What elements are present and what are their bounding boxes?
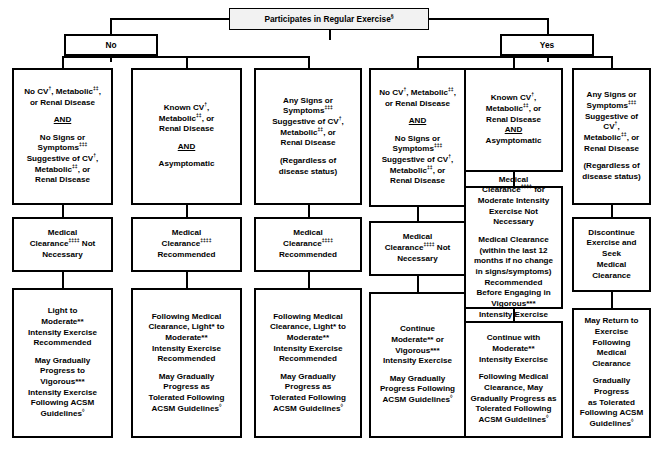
- connector-col4-r1-r2: [417, 207, 419, 221]
- clearance-box-col1: MedicalClearance‡‡‡‡ NotNecessary: [12, 217, 113, 272]
- connector-col1-r1-r2: [62, 203, 64, 217]
- c3-l5: Renal Disease: [281, 138, 336, 147]
- c3-cl2s: ‡‡‡‡: [322, 237, 333, 243]
- c1-cl2b: Not: [80, 239, 96, 248]
- c2-r6: May Gradually: [159, 372, 214, 381]
- c1-l4a: Symptoms: [38, 143, 79, 152]
- c3-l2a: Symptoms: [283, 106, 324, 115]
- c4-cl1: Medical: [403, 232, 433, 241]
- c1-l4s: ‡‡‡: [79, 142, 87, 148]
- c1-r5: May Gradually: [35, 356, 90, 365]
- criteria-box-col1: No CV†, Metabolic‡‡,or Renal Disease AND…: [12, 68, 113, 205]
- c1-r8: Intensity Exercise: [28, 388, 97, 397]
- c5-r2: Moderate**: [492, 344, 534, 353]
- c5-cl2a: Clearance: [482, 185, 521, 194]
- c5-cl3: Moderate Intensity: [478, 196, 550, 205]
- c1-cl2s: ‡‡‡‡: [68, 237, 79, 243]
- connector-yes-col4: [417, 56, 419, 68]
- c5-cl1: Medical: [499, 175, 529, 184]
- c3-r2: Clearance, Light* to: [270, 322, 346, 331]
- c5-cl10: Recommended: [484, 278, 542, 287]
- c5-r3: Intensity Exercise: [479, 355, 548, 364]
- c5-l3: Renal Disease: [486, 115, 541, 124]
- c1-cl2a: Clearance: [30, 239, 69, 248]
- c5-l1a: Known CV: [491, 93, 531, 102]
- c2-l2a: Metabolic: [159, 114, 196, 123]
- c4-r2: Moderate** or: [391, 335, 444, 344]
- c6-cl1: Discontinue: [588, 228, 634, 237]
- c1-and: AND: [54, 115, 72, 124]
- recommendation-box-col5: Continue withModerate**Intensity Exercis…: [464, 321, 563, 438]
- c5-cl8: months if no change: [474, 256, 553, 265]
- c1-l7: Renal Disease: [35, 175, 90, 184]
- c5-r7: Tolerated Following: [476, 404, 552, 413]
- c2-l1b: ,: [207, 103, 209, 112]
- c1-r3: Intensity Exercise: [28, 328, 97, 337]
- c5-cl2s: ‡‡‡‡: [521, 184, 532, 190]
- connector-no-col1: [62, 56, 64, 68]
- c5-r8a: ACSM Guidelines: [479, 415, 546, 424]
- c4-cl2b: Not: [435, 243, 451, 252]
- connector-yes-bus: [417, 56, 613, 58]
- c1-l2: or Renal Disease: [30, 98, 95, 107]
- c4-l1a: No CV: [379, 88, 403, 97]
- c5-r1: Continue with: [487, 333, 541, 342]
- c1-cl3: Necessary: [42, 250, 83, 259]
- branch-label-yes: Yes: [505, 40, 589, 51]
- c3-l3b: ,: [342, 117, 344, 126]
- c2-cl2a: Clearance: [162, 239, 201, 248]
- c3-r4: Intensity Exercise: [274, 344, 343, 353]
- c1-l6b: , or: [78, 165, 91, 174]
- connector-col2-r1-r2: [186, 203, 188, 217]
- c2-r8: Tolerated Following: [149, 393, 225, 402]
- c6-l2s: ‡‡‡: [628, 99, 636, 105]
- c2-r9a: ACSM Guidelines: [152, 404, 219, 413]
- c5-cl9: in signs/symptoms): [475, 267, 551, 276]
- c1-l1b: , Metabolic: [51, 87, 93, 96]
- c3-r8: Tolerated Following: [270, 393, 346, 402]
- c6-l2a: Symptoms: [587, 101, 628, 110]
- c5-cl13: Intensity Exercise: [479, 310, 548, 319]
- clearance-box-col4: MedicalClearance‡‡‡‡ NotNecessary: [369, 221, 466, 276]
- c3-l4b: , or: [323, 128, 336, 137]
- c3-r9a: ACSM Guidelines: [273, 404, 340, 413]
- c6-r2: Exercise Following: [593, 327, 631, 347]
- title-box: Participates in Regular Exercise§: [229, 8, 429, 30]
- connector-no-col2: [186, 56, 188, 68]
- c1-l6a: Metabolic: [35, 165, 72, 174]
- c5-cl4: Exercise Not: [489, 207, 538, 216]
- c1-r9: Following ACSM: [31, 398, 95, 407]
- connector-yes-col6: [611, 56, 613, 68]
- c1-l1a: No CV: [24, 87, 48, 96]
- clearance-box-col2: MedicalClearance‡‡‡‡Recommended: [131, 217, 242, 272]
- c3-cl1: Medical: [293, 228, 323, 237]
- c3-cl2a: Clearance: [283, 239, 322, 248]
- c6-cl3: Medical Clearance: [592, 260, 631, 280]
- criteria-box-col4: No CV†, Metabolic‡‡,or Renal Disease AND…: [369, 68, 466, 207]
- connector-col4-r2-r3: [417, 276, 419, 292]
- c3-r3: Moderate**: [287, 333, 329, 342]
- c1-r6: Progress to: [40, 366, 85, 375]
- c1-cl1: Medical: [48, 228, 78, 237]
- c5-cl12: Vigorous***: [491, 299, 535, 308]
- connector-yes-drop: [547, 18, 549, 34]
- c4-l4a: Symptoms: [393, 144, 434, 153]
- c4-cl2a: Clearance: [385, 243, 424, 252]
- exercise-preparticipation-flowchart: Participates in Regular Exercise§ No Yes…: [0, 0, 659, 449]
- recommendation-box-col1: Light toModerate**Intensity ExerciseReco…: [12, 288, 113, 438]
- title-label: Participates in Regular Exercise: [264, 14, 390, 24]
- c6-n1: (Regardless of: [583, 161, 639, 170]
- c1-r7: Vigorous***: [40, 377, 84, 386]
- c5-r6: Gradually Progress as: [471, 394, 557, 403]
- c4-l7: Renal Disease: [390, 176, 445, 185]
- c2-r2: Clearance, Light* to: [148, 322, 224, 331]
- c5-and: AND: [505, 125, 523, 134]
- c3-l2s: ‡‡‡: [325, 105, 333, 111]
- clearance-box-col3: MedicalClearance‡‡‡‡Recommended: [254, 217, 362, 272]
- c1-r1: Light to: [48, 306, 78, 315]
- recommendation-box-col2: Following MedicalClearance, Light* toMod…: [131, 288, 242, 438]
- c4-l5a: Suggestive of CV: [382, 155, 449, 164]
- c6-l3a: Suggestive of CV: [585, 112, 638, 132]
- title-sup: §: [391, 13, 394, 19]
- c2-l3: Renal Disease: [159, 124, 214, 133]
